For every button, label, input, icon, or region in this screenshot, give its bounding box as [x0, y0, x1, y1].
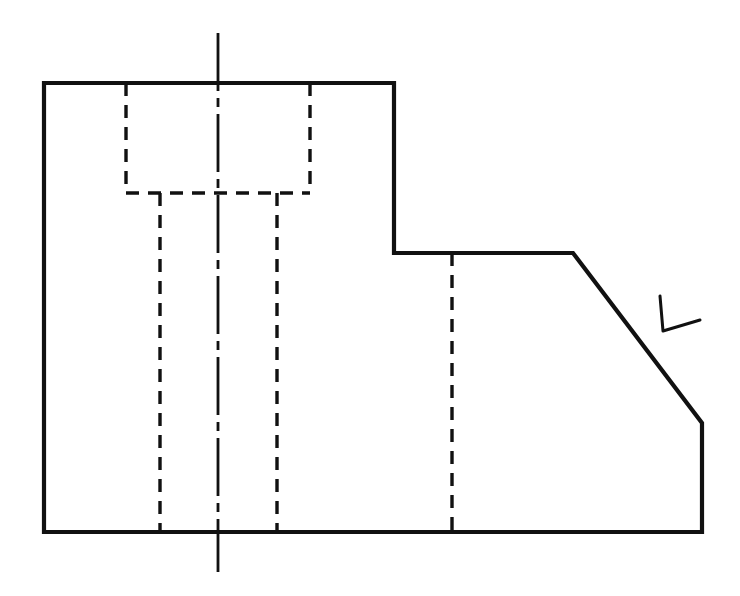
paper-background	[0, 0, 740, 596]
drawing-canvas	[0, 0, 740, 596]
engineering-drawing-svg	[0, 0, 740, 596]
